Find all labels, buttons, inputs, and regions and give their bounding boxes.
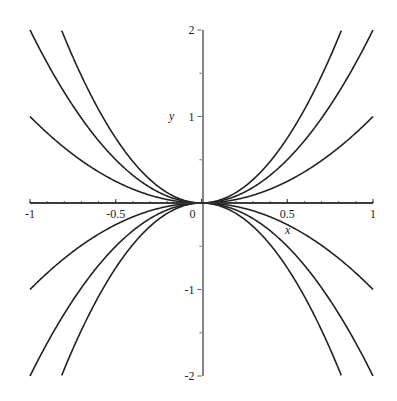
x-tick-label: -1	[25, 207, 35, 221]
x-tick-label: -0.5	[106, 207, 125, 221]
x-tick-label: 0.5	[280, 207, 295, 221]
y-tick-label: 2	[189, 23, 195, 37]
chart: -1-0.500.51-2-112 x y	[0, 0, 397, 401]
y-tick-label: -1	[185, 283, 195, 297]
y-tick-label: -2	[185, 369, 195, 383]
x-tick-label: 0	[190, 207, 196, 221]
y-tick-label: 1	[189, 110, 195, 124]
y-axis-label: y	[168, 109, 175, 123]
x-axis-label: x	[284, 223, 291, 237]
x-tick-label: 1	[370, 207, 376, 221]
